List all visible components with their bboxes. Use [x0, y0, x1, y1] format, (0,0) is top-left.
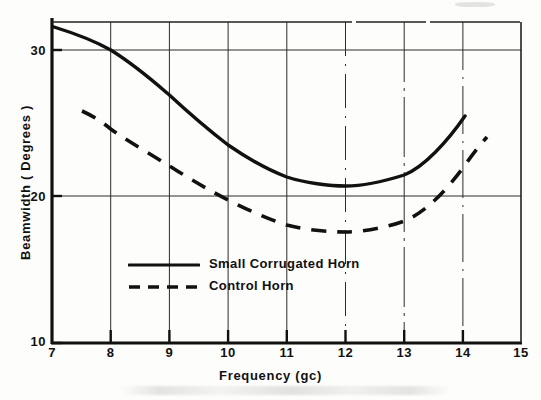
x-tick-label-10: 10	[220, 345, 235, 360]
y-axis-title: Beamwidth ( Degrees )	[18, 83, 33, 283]
x-tick-label-15: 15	[513, 345, 528, 360]
legend-item-small-corrugated-horn: Small Corrugated Horn	[128, 252, 360, 274]
legend-swatch-dashed-line	[128, 279, 200, 291]
x-tick-marks	[111, 330, 463, 343]
x-axis-title: Frequency (gc)	[0, 368, 541, 383]
legend-label-small-corrugated-horn: Small Corrugated Horn	[209, 256, 360, 271]
x-tick-label-9: 9	[166, 345, 174, 360]
series-control-horn	[82, 111, 487, 232]
y-tick-label-30: 30	[16, 43, 46, 58]
chart-legend: Small Corrugated Horn Control Horn	[128, 252, 360, 296]
series-small-corrugated-horn	[54, 27, 465, 186]
legend-item-control-horn: Control Horn	[128, 274, 360, 296]
x-tick-label-11: 11	[279, 345, 294, 360]
x-tick-label-13: 13	[396, 345, 411, 360]
chart-canvas	[0, 0, 541, 400]
beamwidth-vs-frequency-figure: 30 20 10 7 8 9 10 11 12 13 14 15 Frequen…	[0, 0, 541, 400]
x-tick-label-7: 7	[48, 345, 56, 360]
x-tick-label-12: 12	[338, 345, 353, 360]
legend-swatch-solid-line	[128, 257, 200, 269]
x-tick-label-8: 8	[107, 345, 115, 360]
x-tick-label-14: 14	[455, 345, 470, 360]
cut-off-caption-artifact	[120, 386, 450, 395]
legend-label-control-horn: Control Horn	[209, 278, 294, 293]
y-tick-label-10: 10	[16, 334, 46, 349]
